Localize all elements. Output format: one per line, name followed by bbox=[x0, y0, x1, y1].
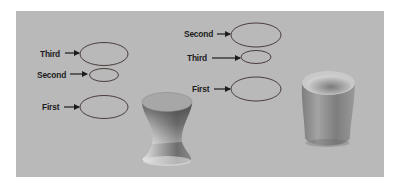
hourglass-loft-shape bbox=[142, 93, 192, 167]
second-section-ellipse-right bbox=[231, 23, 281, 47]
label-second-right: Second bbox=[184, 28, 213, 39]
second-section-ellipse-left bbox=[90, 69, 119, 82]
first-section-ellipse-right bbox=[231, 77, 281, 101]
cup-loft-shape bbox=[302, 71, 355, 147]
label-first-left: First bbox=[42, 101, 59, 112]
label-third-left: Third bbox=[40, 48, 60, 59]
label-second-left: Second bbox=[37, 69, 66, 80]
label-first-right: First bbox=[192, 83, 209, 94]
label-third-right: Third bbox=[187, 52, 207, 63]
third-section-ellipse-left bbox=[80, 43, 128, 66]
third-section-ellipse-right bbox=[241, 51, 271, 64]
first-section-ellipse-left bbox=[80, 96, 128, 119]
